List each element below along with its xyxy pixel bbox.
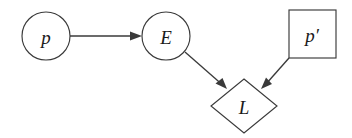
edge-p-to-E <box>70 32 142 41</box>
edge-E-to-L-line <box>185 52 222 84</box>
edge-pprime-to-L-line <box>266 58 289 84</box>
diagram-svg: p E p′ L <box>0 0 352 138</box>
node-L-label: L <box>238 97 250 118</box>
node-p-prime-label: p′ <box>303 25 320 46</box>
node-p[interactable]: p <box>22 12 70 60</box>
node-p-label: p <box>39 27 51 48</box>
arrow-head-p-to-E <box>130 32 142 41</box>
node-E[interactable]: E <box>142 12 190 60</box>
edge-pprime-to-L <box>261 58 289 89</box>
node-L[interactable]: L <box>211 79 277 133</box>
edge-E-to-L <box>185 52 227 89</box>
diagram-canvas: p E p′ L <box>0 0 352 138</box>
node-p-prime[interactable]: p′ <box>289 10 336 58</box>
node-E-label: E <box>159 27 172 48</box>
